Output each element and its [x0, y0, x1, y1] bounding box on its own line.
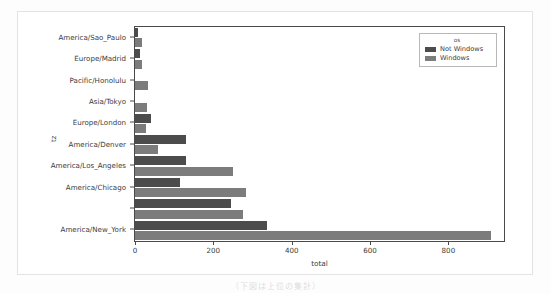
bar-not-windows — [135, 28, 138, 37]
bar-group — [135, 199, 504, 219]
screenshot-root: tz America/Sao_PauloEurope/MadridPacific… — [0, 0, 551, 293]
bar-windows — [135, 145, 158, 154]
plot-area: os Not Windows Windows — [134, 26, 505, 242]
x-tick-label: 0 — [133, 246, 138, 255]
bar-not-windows — [135, 114, 151, 123]
bar-group — [135, 221, 504, 241]
bar-group — [135, 135, 504, 155]
legend-title: os — [425, 37, 489, 43]
x-tick-label: 200 — [207, 246, 221, 255]
bar-not-windows — [135, 135, 186, 144]
figure-frame: tz America/Sao_PauloEurope/MadridPacific… — [17, 11, 533, 275]
x-tick-mark — [292, 242, 293, 245]
y-tick-label: America/Chicago — [66, 182, 126, 191]
y-tick-label: America/Denver — [69, 139, 126, 148]
bar-windows — [135, 167, 233, 176]
x-tick-mark — [370, 242, 371, 245]
bar-group — [135, 114, 504, 134]
x-tick-label: 400 — [285, 246, 299, 255]
bar-group — [135, 178, 504, 198]
bar-not-windows — [135, 178, 180, 187]
bar-not-windows — [135, 221, 267, 230]
x-tick-label: 800 — [442, 246, 456, 255]
y-tick-label: America/Sao_Paulo — [58, 32, 126, 41]
bar-windows — [135, 103, 147, 112]
y-tick-label-layer: America/Sao_PauloEurope/MadridPacific/Ho… — [18, 26, 134, 242]
figure-caption: （下図は上位の集計） — [0, 280, 551, 290]
y-tick-label: Asia/Tokyo — [89, 96, 126, 105]
bar-group — [135, 71, 504, 91]
bar-windows — [135, 231, 491, 240]
bar-windows — [135, 210, 243, 219]
x-tick-mark — [213, 242, 214, 245]
bar-windows — [135, 60, 142, 69]
y-tick-label: Pacific/Honolulu — [70, 75, 126, 84]
bar-windows — [135, 81, 148, 90]
y-tick-label: America/New_York — [61, 225, 126, 234]
y-tick-label: America/Los_Angeles — [51, 161, 126, 170]
bar-windows — [135, 188, 246, 197]
legend-label-not-windows: Not Windows — [440, 45, 483, 53]
bar-not-windows — [135, 156, 186, 165]
x-tick-mark — [448, 242, 449, 245]
bar-group — [135, 156, 504, 176]
legend-swatch-not-windows — [425, 47, 436, 52]
bar-windows — [135, 124, 146, 133]
legend-label-windows: Windows — [440, 54, 469, 62]
y-tick-label: Europe/Madrid — [74, 54, 126, 63]
bar-windows — [135, 38, 142, 47]
legend-item-not-windows: Not Windows — [425, 45, 489, 53]
x-tick-mark — [135, 242, 136, 245]
y-tick-label: Europe/London — [73, 118, 126, 127]
legend-swatch-windows — [425, 56, 436, 61]
bar-not-windows — [135, 49, 140, 58]
legend-item-windows: Windows — [425, 54, 489, 62]
legend: os Not Windows Windows — [419, 33, 497, 67]
x-axis-label: total — [134, 259, 505, 268]
x-tick-label: 600 — [363, 246, 377, 255]
bar-group — [135, 92, 504, 112]
bar-not-windows — [135, 199, 231, 208]
